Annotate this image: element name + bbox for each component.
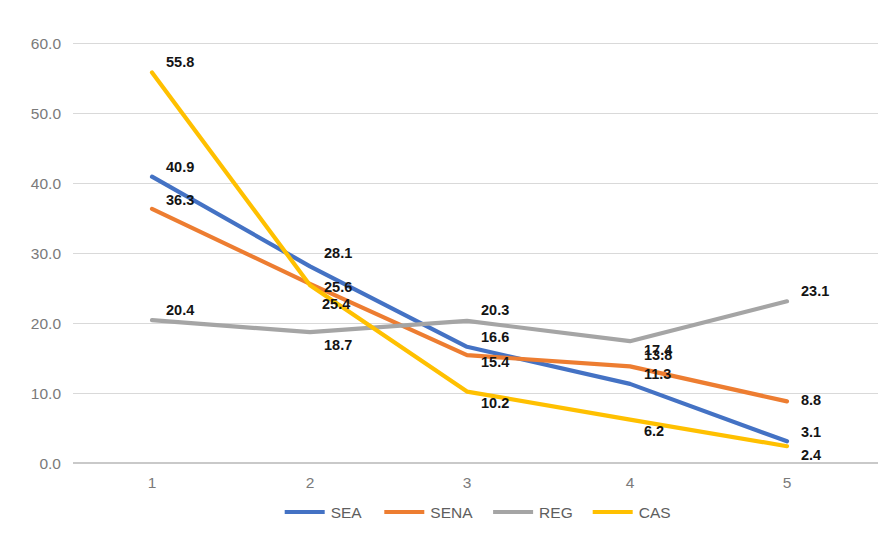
data-label: 20.4 [166,302,194,318]
data-label: 20.3 [481,302,509,318]
data-label: 16.6 [481,329,509,345]
data-label: 17.4 [644,342,672,358]
series-lines-group [152,72,787,446]
x-axis-tick-label: 1 [148,474,157,491]
legend: SEASENAREGCAS [285,504,671,521]
data-label: 25.4 [322,296,350,312]
chart-canvas: 0.010.020.030.040.050.060.0 12345 40.928… [0,0,893,555]
series-line-reg [152,301,787,341]
y-axis-tick-label: 40.0 [31,175,62,192]
data-label: 36.3 [166,192,194,208]
data-label: 11.3 [644,366,671,382]
legend-label-sea: SEA [331,504,363,521]
data-label: 25.6 [324,279,352,295]
data-label: 6.2 [644,423,664,439]
data-label: 3.1 [801,424,821,440]
series-line-cas [152,72,787,446]
legend-label-sena: SENA [430,504,473,521]
line-chart: 0.010.020.030.040.050.060.0 12345 40.928… [0,0,893,555]
data-label: 10.2 [481,395,509,411]
data-labels-group: 40.928.116.611.33.136.325.615.413.88.820… [166,54,829,463]
legend-label-cas: CAS [639,504,671,521]
data-label: 23.1 [801,283,829,299]
x-axis-tick-label: 4 [626,474,635,491]
series-line-sena [152,209,787,402]
y-axis-tick-label: 60.0 [31,35,62,52]
x-axis-tick-labels: 12345 [148,474,792,491]
y-axis-tick-label: 20.0 [31,315,62,332]
y-axis-tick-label: 10.0 [31,385,62,402]
data-label: 8.8 [801,392,821,408]
data-label: 2.4 [801,447,821,463]
data-label: 18.7 [324,337,352,353]
x-axis-tick-label: 5 [783,474,792,491]
legend-label-reg: REG [539,504,573,521]
x-axis-tick-label: 2 [306,474,315,491]
data-label: 55.8 [166,54,194,70]
data-label: 28.1 [324,245,352,261]
y-axis-tick-label: 50.0 [31,105,62,122]
series-line-sea [152,177,787,442]
data-label: 15.4 [481,354,509,370]
y-axis-tick-label: 30.0 [31,245,62,262]
y-axis-tick-labels: 0.010.020.030.040.050.060.0 [31,35,62,472]
data-label: 40.9 [166,159,194,175]
x-axis-tick-label: 3 [463,474,472,491]
gridlines-group [73,43,878,463]
y-axis-tick-label: 0.0 [39,455,61,472]
